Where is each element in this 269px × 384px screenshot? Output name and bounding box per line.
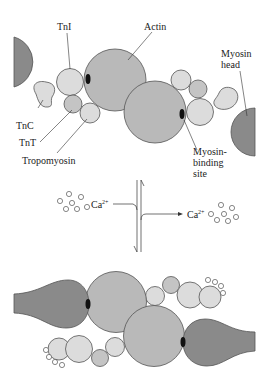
tropomyosin-left [80,103,100,123]
tnt-right [189,80,207,98]
calcium-ions-right [208,202,238,223]
bottom-binding-site-left [86,299,91,309]
bottom-tnt-lower [92,350,109,367]
muscle-contraction-diagram: TnI Actin Myosin head TnC TnT Tropomyosi… [0,0,269,384]
top-panel: TnI Actin Myosin head TnC TnT Tropomyosi… [14,21,255,179]
myosin-head-left [14,37,33,87]
label-calcium-right: Ca2+ [187,209,205,220]
bottom-tni-lower [66,336,93,363]
bottom-tnc-upper [199,286,221,308]
tropomyosin-right [171,70,191,90]
label-actin: Actin [144,21,166,32]
label-tnt: TnT [19,137,36,148]
arrow-up-head [141,180,144,186]
tnc-right [214,87,238,109]
myosin-head-right [231,108,255,156]
bottom-actin-lower [124,306,185,367]
label-binding-site-1: Myosin- [193,146,227,157]
tni-right [187,99,214,126]
bottom-tropomyosin-upper [146,287,165,306]
tni-left [57,69,84,96]
label-tnc: TnC [16,120,34,131]
bottom-binding-site-right [181,337,186,347]
binding-site-upper [86,74,91,84]
label-myosin-head-2: head [221,59,240,70]
label-tropomyosin: Tropomyosin [22,155,76,166]
binding-site-lower [180,109,185,119]
calcium-equilibrium: Ca2+ Ca2+ [57,180,238,252]
label-tni: TnI [57,21,71,32]
calcium-ions-left [57,191,89,211]
label-myosin-head-1: Myosin [221,48,252,59]
bottom-tropomyosin-lower [106,338,125,357]
bottom-myosin-head-left [14,280,89,328]
arrow-down-head [134,246,137,252]
label-binding-site-2: binding [193,157,224,168]
bottom-panel [14,272,255,368]
arrow-right-head [178,212,183,216]
actin-monomer-lower [124,81,186,143]
bottom-tnt-upper [163,277,180,294]
tnc-left [34,82,55,108]
label-calcium-left: Ca2+ [91,199,109,210]
bottom-myosin-head-right [183,319,255,366]
label-binding-site-3: site [193,168,207,179]
tnt-left [64,95,82,113]
